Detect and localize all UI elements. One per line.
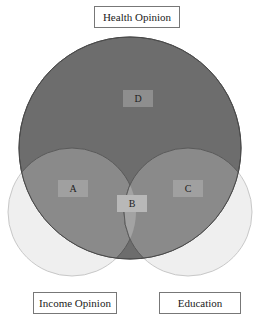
venn-diagram — [0, 0, 260, 324]
region-b-label: B — [117, 195, 147, 212]
region-c-label: C — [173, 180, 203, 197]
region-d-label: D — [123, 90, 153, 107]
education-label: Education — [159, 292, 241, 314]
health-opinion-label: Health Opinion — [94, 6, 180, 28]
region-a-label: A — [58, 180, 88, 197]
income-opinion-label: Income Opinion — [33, 292, 117, 314]
